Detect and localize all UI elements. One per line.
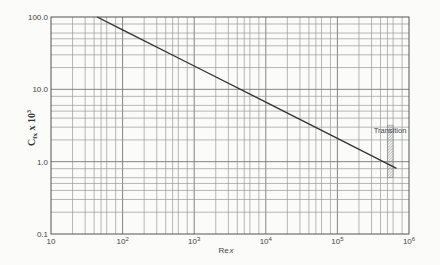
y-tick-label: 100.0 — [28, 13, 49, 22]
grid-lines — [51, 17, 409, 234]
y-tick-label: 10.0 — [32, 85, 48, 94]
skin-friction-line — [97, 17, 396, 168]
chart: 10102103104105106 0.11.010.0100.0 Rex Cf… — [0, 0, 440, 265]
x-tick-label: 104 — [260, 236, 273, 246]
x-tick-label: 106 — [403, 236, 416, 246]
x-tick-label: 103 — [188, 236, 201, 246]
y-tick-label: 1.0 — [37, 158, 49, 167]
y-axis-label: Cfx x 103 — [26, 110, 39, 146]
transition-label: Transition — [374, 126, 407, 135]
x-tick-label: 102 — [116, 236, 129, 246]
x-axis-label: Rex — [218, 246, 234, 255]
x-tick-label: 105 — [331, 236, 344, 246]
y-tick-label: 0.1 — [37, 230, 49, 239]
plot-frame — [51, 17, 409, 234]
x-axis-ticks: 10102103104105106 — [47, 236, 416, 246]
